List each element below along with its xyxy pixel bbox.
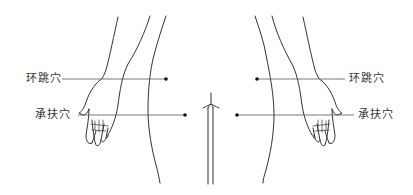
label-left-chengfu: 承扶穴 bbox=[35, 109, 71, 121]
right-arm-inner-contour bbox=[272, 16, 312, 135]
label-left-huantiao: 环跳穴 bbox=[26, 73, 62, 85]
right-hand-fingers bbox=[313, 109, 335, 146]
label-right-huantiao: 环跳穴 bbox=[349, 73, 385, 85]
acupoint-marker-right-chengfu bbox=[235, 113, 239, 117]
right-body-contour bbox=[255, 16, 274, 183]
center-cleft bbox=[203, 93, 219, 184]
acupoint-marker-left-huantiao bbox=[164, 77, 168, 81]
acupoint-marker-left-chengfu bbox=[183, 113, 187, 117]
right-finger-creases bbox=[313, 120, 330, 132]
body-outline-figure bbox=[0, 0, 413, 195]
acupoint-marker-right-huantiao bbox=[255, 77, 259, 81]
label-right-chengfu: 承扶穴 bbox=[358, 109, 394, 121]
right-arm-outer-contour bbox=[303, 17, 342, 115]
left-finger-creases bbox=[91, 120, 108, 132]
left-hand-fingers bbox=[86, 109, 108, 146]
left-arm-outer-contour bbox=[79, 17, 118, 115]
left-body-contour bbox=[148, 16, 166, 183]
